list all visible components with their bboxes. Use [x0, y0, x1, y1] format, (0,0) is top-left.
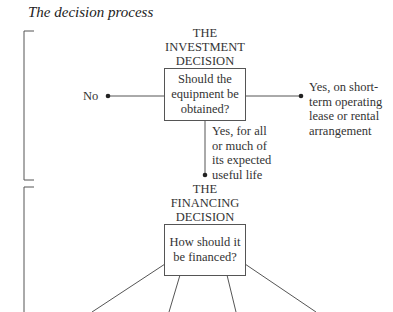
yes-long-dot: [203, 173, 208, 178]
yes-full-life-line: or much of: [212, 139, 271, 154]
yes-short-dot: [299, 94, 304, 99]
financing-question-box: How should it be financed?: [164, 224, 246, 276]
no-label: No: [83, 89, 98, 104]
yes-short-term-line: lease or rental: [309, 109, 382, 124]
yes-short-term-line: Yes, on short-: [309, 80, 382, 95]
yes-full-life-line: its expected: [212, 153, 271, 168]
yes-full-life-line: Yes, for all: [212, 124, 271, 139]
financing-header-line: THE: [145, 182, 265, 196]
investment-header-line: DECISION: [145, 54, 265, 68]
yes-full-life-line: useful life: [212, 168, 271, 183]
yes-short-term-label: Yes, on short- term operating lease or r…: [309, 80, 382, 138]
investment-header-line: INVESTMENT: [145, 40, 265, 54]
yes-full-life-label: Yes, for all or much of its expected use…: [212, 124, 271, 182]
no-dot: [106, 94, 111, 99]
investment-header: THE INVESTMENT DECISION: [145, 26, 265, 68]
investment-question-line: Should the: [171, 72, 239, 87]
investment-question-box: Should the equipment be obtained?: [164, 68, 246, 121]
financing-header-line: FINANCING: [145, 196, 265, 210]
investment-header-line: THE: [145, 26, 265, 40]
financing-header: THE FINANCING DECISION: [145, 182, 265, 224]
investment-bracket: [24, 31, 34, 180]
financing-bracket: [24, 187, 34, 312]
financing-header-line: DECISION: [145, 210, 265, 224]
investment-question-line: equipment be: [171, 87, 239, 102]
financing-question-line: How should it: [170, 235, 241, 250]
yes-short-term-line: arrangement: [309, 124, 382, 139]
financing-question-line: be financed?: [170, 250, 241, 265]
investment-question-line: obtained?: [171, 102, 239, 117]
yes-short-term-line: term operating: [309, 95, 382, 110]
